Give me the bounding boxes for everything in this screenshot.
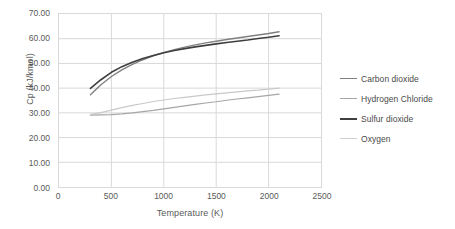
- y-axis-tick-label: 30.00: [29, 108, 50, 118]
- chart-container: Cp (kJ/kmol) 0.0010.0020.0030.0040.0050.…: [0, 0, 455, 229]
- legend-item[interactable]: Carbon dioxide: [340, 70, 455, 87]
- y-axis-tick-label: 50.00: [29, 58, 50, 68]
- series-line: [90, 36, 279, 89]
- series-line: [90, 88, 279, 114]
- x-axis-tick-labels: 05001000150020002500: [0, 191, 455, 205]
- legend-label: Hydrogen Chloride: [361, 94, 433, 104]
- legend-item[interactable]: Sulfur dioxide: [340, 110, 455, 127]
- x-axis-tick-label: 1000: [154, 191, 173, 201]
- series-lines: [90, 32, 279, 115]
- plot-canvas: [59, 14, 321, 187]
- y-axis-tick-label: 70.00: [29, 8, 50, 18]
- legend-swatch-icon: [340, 118, 357, 120]
- legend-swatch-icon: [340, 138, 357, 139]
- x-axis-tick-label: 500: [104, 191, 118, 201]
- x-axis-title: Temperature (K): [58, 208, 322, 218]
- legend-swatch-icon: [340, 78, 357, 79]
- y-axis-tick-label: 40.00: [29, 83, 50, 93]
- gridlines-horizontal: [59, 39, 321, 163]
- y-axis-tick-label: 20.00: [29, 133, 50, 143]
- y-axis-tick-label: 60.00: [29, 33, 50, 43]
- chart-legend: Carbon dioxideHydrogen ChlorideSulfur di…: [340, 70, 455, 150]
- x-axis-tick-label: 2500: [313, 191, 332, 201]
- plot-area: [58, 13, 322, 188]
- legend-label: Carbon dioxide: [361, 74, 419, 84]
- legend-item[interactable]: Oxygen: [340, 130, 455, 147]
- y-axis-tick-label: 10.00: [29, 158, 50, 168]
- x-axis-tick-label: 1500: [207, 191, 226, 201]
- legend-item[interactable]: Hydrogen Chloride: [340, 90, 455, 107]
- legend-label: Sulfur dioxide: [361, 114, 413, 124]
- x-axis-tick-label: 0: [56, 191, 61, 201]
- legend-label: Oxygen: [361, 134, 391, 144]
- x-axis-tick-label: 2000: [260, 191, 279, 201]
- legend-swatch-icon: [340, 98, 357, 99]
